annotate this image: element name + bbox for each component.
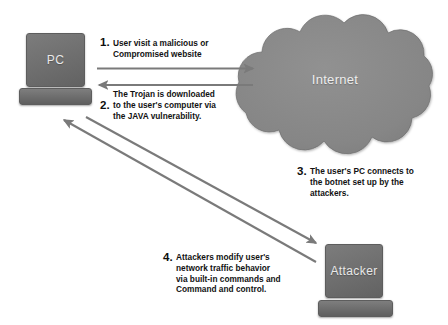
step-3: 3. The user's PC connects to the botnet … xyxy=(297,166,415,198)
node-pc: PC xyxy=(26,33,85,87)
node-attacker-base xyxy=(318,300,393,317)
node-attacker-label: Attacker xyxy=(330,264,377,278)
node-attacker: Attacker xyxy=(325,244,383,298)
step-1-number: 1. xyxy=(100,36,113,48)
step-2-text: The Trojan is downloaded to the user's c… xyxy=(113,89,216,121)
step-2: 2. The Trojan is downloaded to the user'… xyxy=(100,89,220,121)
node-pc-base xyxy=(19,88,92,105)
diagram-canvas: PC Internet Attacker 1. User visit a mal… xyxy=(0,0,448,325)
cloud-icon xyxy=(236,15,432,154)
step-1: 1. User visit a malicious or Compromised… xyxy=(100,38,218,60)
step-4: 4. Attackers modify user's network traff… xyxy=(163,252,281,295)
step-3-number: 3. xyxy=(297,165,310,177)
node-pc-label: PC xyxy=(47,53,64,67)
step-4-number: 4. xyxy=(163,251,176,263)
step-1-text: User visit a malicious or Compromised we… xyxy=(113,38,208,60)
step-4-text: Attackers modify user's network traffic … xyxy=(176,252,281,295)
step-2-number: 2. xyxy=(100,99,113,111)
arrow-attacker-to-pc xyxy=(64,120,316,262)
step-3-text: The user's PC connects to the botnet set… xyxy=(310,166,414,198)
